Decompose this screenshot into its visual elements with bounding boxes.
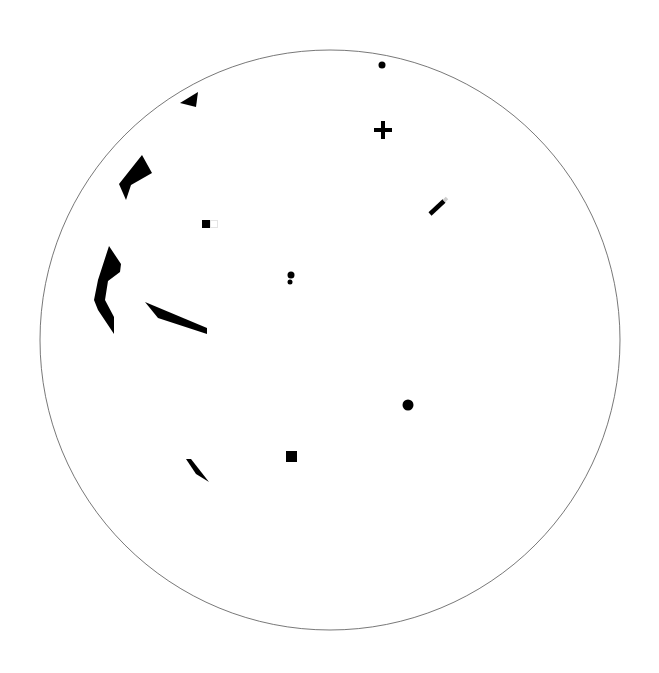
boundary-circle	[40, 50, 620, 630]
marker-layer	[202, 62, 447, 463]
plus-sign-icon	[374, 121, 392, 139]
square-bottom-icon	[286, 451, 297, 462]
diagonal-bar-icon	[430, 201, 444, 214]
plus-vertical	[381, 121, 385, 139]
triangle-top-left	[180, 92, 198, 107]
dot-1	[288, 280, 293, 285]
square-with-outline-outline	[211, 221, 218, 228]
long-wedge-left	[145, 302, 207, 334]
dot-top-icon	[379, 62, 386, 69]
diagonal-bar-tip	[444, 198, 447, 201]
dot-0	[288, 272, 295, 279]
small-wedge-lower-left	[186, 459, 209, 482]
curved-shard-left	[94, 246, 121, 334]
square-with-outline-icon	[202, 220, 210, 228]
dot-right-icon	[403, 400, 414, 411]
shape-layer	[94, 92, 209, 482]
double-dot-center-icon	[288, 272, 295, 285]
bent-shard-upper-left	[119, 155, 152, 200]
diagram-canvas	[0, 0, 659, 673]
